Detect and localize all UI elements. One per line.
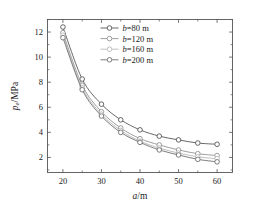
y-tick-label: 4 — [39, 127, 44, 137]
line-chart: 203040506024681012 b=80 mb=120 mb=160 mb… — [0, 0, 268, 214]
figure-container: 203040506024681012 b=80 mb=120 mb=160 mb… — [0, 0, 268, 214]
y-tick-label: 2 — [39, 152, 43, 162]
data-point-marker — [80, 77, 85, 82]
data-point-marker — [138, 128, 143, 133]
data-point-marker — [215, 142, 220, 147]
legend-marker-icon — [107, 26, 112, 31]
data-point-marker — [196, 141, 201, 146]
legend-marker-icon — [107, 36, 112, 41]
legend-label: b=80 m — [123, 23, 150, 33]
data-point-marker — [157, 134, 162, 139]
data-point-marker — [99, 102, 104, 107]
legend-marker-icon — [107, 58, 112, 63]
x-tick-label: 40 — [136, 176, 145, 186]
data-point-marker — [61, 25, 66, 30]
data-point-marker — [138, 140, 143, 145]
y-tick-label: 8 — [39, 77, 43, 87]
legend-label: b=120 m — [123, 34, 154, 44]
data-point-marker — [118, 130, 123, 135]
legend-label: b=160 m — [123, 44, 154, 54]
data-point-marker — [99, 114, 104, 119]
y-tick-label: 6 — [39, 102, 43, 112]
x-tick-label: 50 — [174, 176, 183, 186]
y-tick-label: 12 — [35, 27, 44, 37]
x-tick-label: 20 — [59, 176, 68, 186]
data-point-marker — [157, 148, 162, 153]
data-point-marker — [196, 157, 201, 162]
x-tick-label: 60 — [213, 176, 222, 186]
x-axis-title: a/m — [133, 191, 148, 201]
legend-label: b=200 m — [123, 55, 154, 65]
data-point-marker — [215, 160, 220, 165]
y-axis-title: pe/MPa — [10, 81, 21, 111]
legend-marker-icon — [107, 47, 112, 52]
data-point-marker — [80, 87, 85, 92]
x-tick-label: 30 — [97, 176, 106, 186]
data-point-marker — [118, 118, 123, 123]
y-tick-label: 10 — [35, 52, 44, 62]
data-point-marker — [61, 35, 66, 40]
data-point-marker — [176, 153, 181, 158]
data-point-marker — [176, 138, 181, 143]
